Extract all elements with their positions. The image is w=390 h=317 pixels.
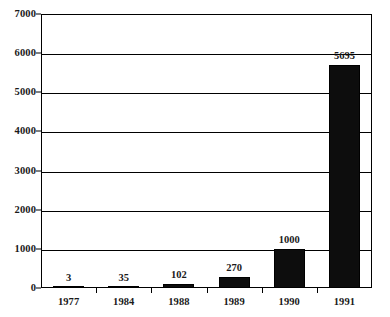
gridline	[42, 211, 371, 212]
plot-area	[41, 14, 372, 288]
x-axis-label: 1977	[58, 296, 79, 309]
x-axis-tick	[262, 288, 263, 293]
x-axis-tick	[207, 288, 208, 293]
gridline	[42, 54, 371, 55]
gridline	[42, 93, 371, 94]
x-axis-ticks	[41, 288, 372, 294]
y-axis-label: 2000	[0, 204, 36, 215]
y-axis-label: 0	[0, 283, 36, 294]
x-axis-label: 1991	[334, 296, 355, 309]
y-axis-label: 6000	[0, 48, 36, 59]
x-axis-label: 1984	[113, 296, 134, 309]
y-axis-label: 3000	[0, 165, 36, 176]
gridline	[42, 132, 371, 133]
y-axis-label: 5000	[0, 87, 36, 98]
x-axis-label: 1990	[279, 296, 300, 309]
x-axis: 1977 1984 1988 1989 1990 1991	[41, 296, 372, 314]
x-axis-tick	[317, 288, 318, 293]
y-axis-label: 7000	[0, 9, 36, 20]
x-axis-tick	[151, 288, 152, 293]
y-axis-label: 4000	[0, 126, 36, 137]
gridline	[42, 250, 371, 251]
y-axis-label: 1000	[0, 244, 36, 255]
x-axis-label: 1989	[223, 296, 244, 309]
y-axis: 7000 6000 5000 4000 3000 2000 1000 0	[0, 0, 36, 317]
bar-chart: 7000 6000 5000 4000 3000 2000 1000 0 3 3…	[0, 0, 390, 317]
x-axis-tick	[96, 288, 97, 293]
gridline	[42, 172, 371, 173]
x-axis-label: 1988	[168, 296, 189, 309]
